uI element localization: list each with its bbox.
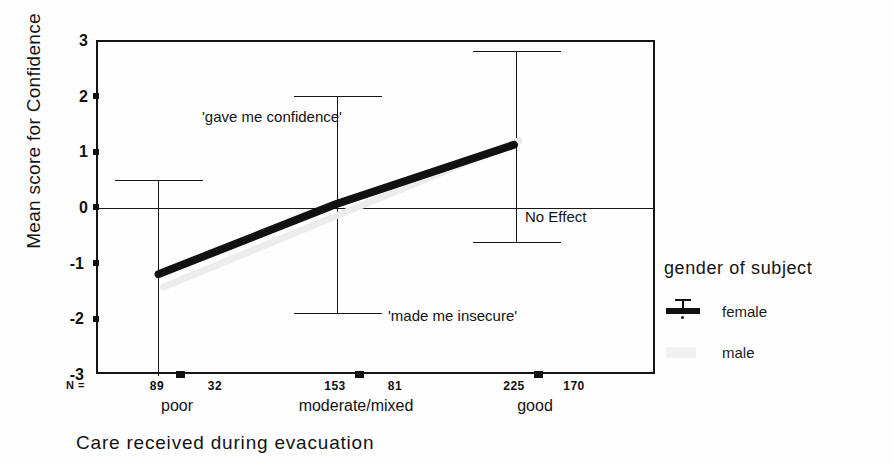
series-lines — [98, 42, 653, 372]
y-tick-label-neg1: -1 — [50, 256, 84, 272]
errorbar-cap-upper-moderate — [294, 96, 382, 97]
plot-area: 'gave me confidence' No Effect 'made me … — [96, 40, 655, 374]
series-line-male — [164, 141, 519, 287]
n-value-poor-female: 89 — [137, 379, 177, 393]
n-value-moderate-male: 81 — [375, 379, 415, 393]
errorbar-stem-moderate — [337, 96, 338, 313]
x-tick-mark-moderate — [355, 371, 364, 378]
errorbar-cap-upper-poor — [115, 180, 203, 181]
n-prefix-label: N = — [66, 379, 85, 391]
x-tick-mark-good — [534, 371, 543, 378]
n-value-good-female: 225 — [494, 379, 534, 393]
n-value-poor-male: 32 — [195, 379, 235, 393]
chart-screenshot: Mean score for Confidence 3 2 1 0 -1 -2 … — [0, 0, 893, 465]
errorbar-key-dark-icon — [666, 297, 706, 321]
errorbar-stem-good — [516, 51, 517, 242]
errorbar-cap-lower-moderate — [294, 313, 382, 314]
errorbar-cap-upper-good — [473, 51, 561, 52]
annotation-gave-me-confidence: 'gave me confidence' — [202, 108, 342, 125]
y-tick-label-2: 2 — [54, 89, 88, 105]
legend-item-male[interactable]: male — [664, 335, 889, 369]
x-category-label-good: good — [455, 397, 615, 415]
y-tick-label-1: 1 — [54, 144, 88, 160]
y-axis-label: Mean score for Confidence — [23, 0, 45, 281]
n-value-good-male: 170 — [554, 379, 594, 393]
y-tick-label-neg2: -2 — [50, 311, 84, 327]
legend-item-female[interactable]: female — [664, 293, 889, 327]
errorbar-stem-poor — [158, 180, 159, 376]
x-category-label-poor: poor — [97, 397, 257, 415]
y-tick-label-3: 3 — [54, 33, 88, 49]
legend-label-female: female — [722, 303, 767, 320]
errorbar-key-faint-icon — [666, 339, 706, 363]
y-tick-label-0: 0 — [54, 200, 88, 216]
legend-title: gender of subject — [664, 258, 889, 279]
x-tick-mark-poor — [176, 371, 185, 378]
legend-label-male: male — [722, 344, 755, 361]
errorbar-cap-lower-good — [473, 242, 561, 243]
legend: gender of subject female male — [664, 258, 889, 369]
annotation-no-effect: No Effect — [525, 208, 586, 225]
annotation-made-me-insecure: 'made me insecure' — [388, 307, 517, 324]
x-category-label-moderate: moderate/mixed — [276, 397, 436, 415]
x-axis-label: Care received during evacuation — [76, 432, 374, 454]
n-value-moderate-female: 153 — [315, 379, 355, 393]
